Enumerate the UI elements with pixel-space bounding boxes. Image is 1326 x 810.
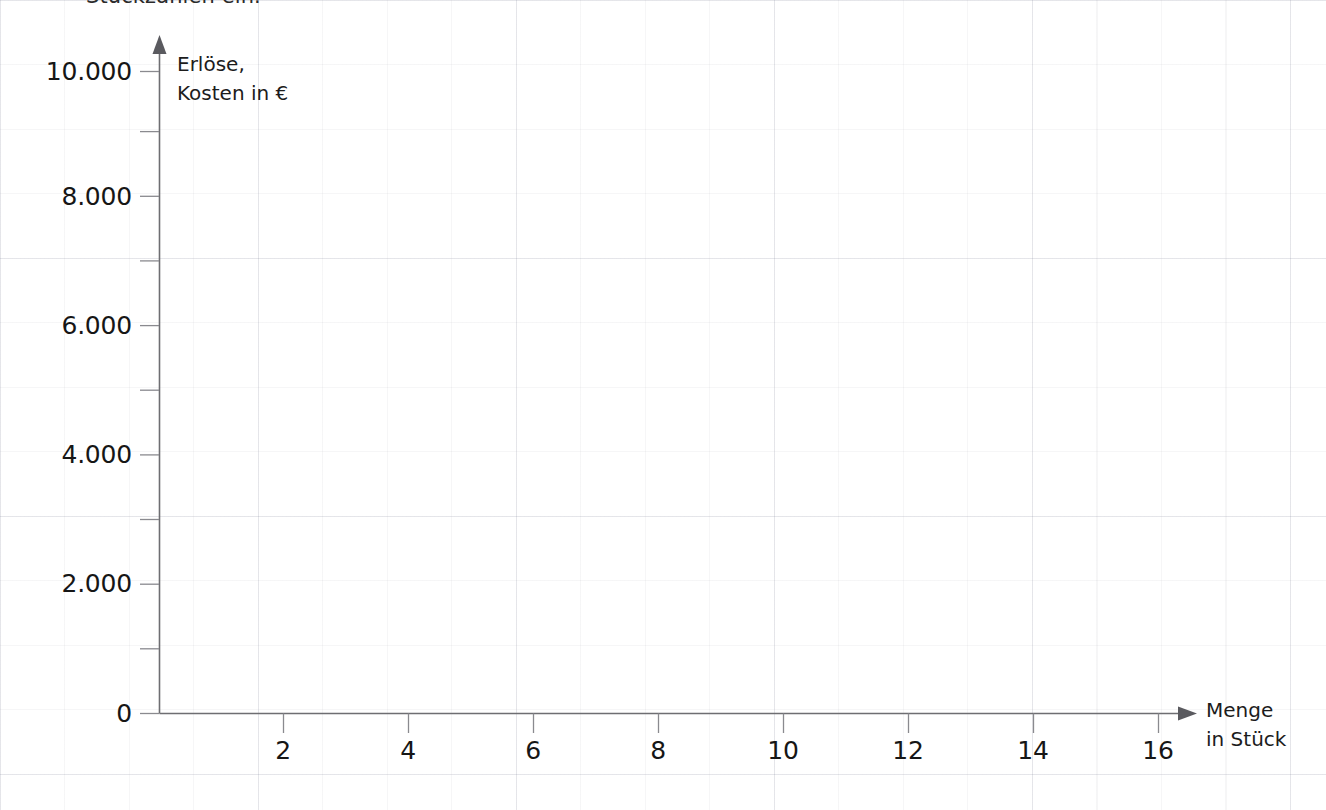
y-axis-title-line-1: Erlöse,: [177, 50, 288, 79]
y-axis-title-line-2: Kosten in €: [177, 79, 288, 108]
y-axis-arrow-icon: [153, 35, 167, 54]
y-tick-label-6000: 6.000: [0, 311, 132, 340]
x-tick-label-6: 6: [493, 736, 573, 765]
y-tick-label-0: 0: [0, 699, 132, 728]
x-tick-label-2: 2: [243, 736, 323, 765]
y-tick-label-8000: 8.000: [0, 182, 132, 211]
x-axis-title: Menge in Stück: [1206, 696, 1286, 754]
x-tick-label-10: 10: [743, 736, 823, 765]
x-tick-label-16: 16: [1118, 736, 1198, 765]
x-axis-tick-marks: [284, 714, 1159, 734]
x-axis-arrow-icon: [1178, 707, 1197, 721]
y-axis-tick-marks: [140, 72, 159, 714]
y-tick-label-2000: 2.000: [0, 569, 132, 598]
x-axis-title-line-2: in Stück: [1206, 725, 1286, 754]
coordinate-system-plot: [0, 0, 1326, 810]
y-tick-label-10000: 10.000: [0, 57, 132, 86]
x-tick-label-14: 14: [993, 736, 1073, 765]
x-tick-label-12: 12: [868, 736, 948, 765]
x-axis-title-line-1: Menge: [1206, 696, 1286, 725]
y-tick-label-4000: 4.000: [0, 440, 132, 469]
x-tick-label-4: 4: [368, 736, 448, 765]
x-tick-label-8: 8: [618, 736, 698, 765]
y-axis-title: Erlöse, Kosten in €: [177, 50, 288, 108]
